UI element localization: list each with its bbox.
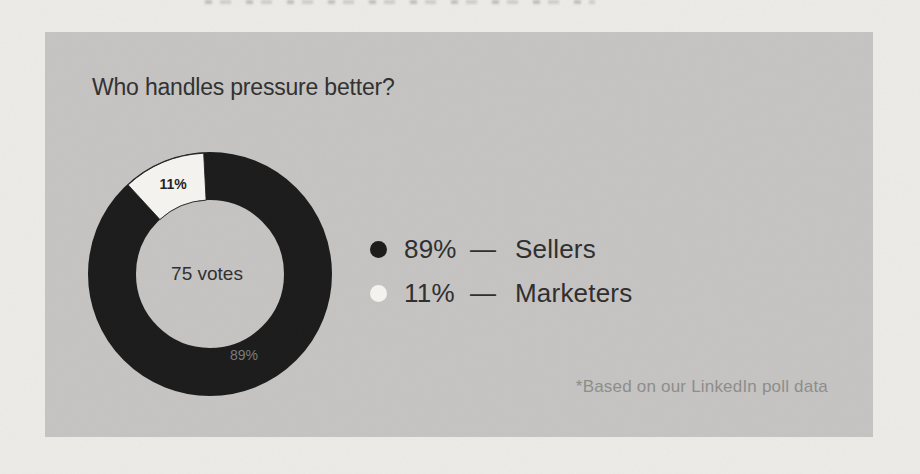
legend-row-sellers: 89% — Sellers [370, 227, 632, 271]
chart-title: Who handles pressure better? [92, 74, 395, 101]
legend-pct-sellers: 89% [404, 234, 470, 265]
cropped-text-artifact [205, 0, 595, 4]
donut-center-label: 75 votes [171, 263, 243, 284]
chart-legend: 89% — Sellers 11% — Marketers [370, 227, 632, 315]
legend-pct-marketers: 11% [404, 278, 470, 309]
legend-row-marketers: 11% — Marketers [370, 271, 632, 315]
donut-chart: 11% 89% 75 votes [87, 151, 333, 397]
marketers-dot-icon [370, 285, 387, 302]
legend-dash: — [470, 278, 515, 309]
slice-label-marketers: 11% [159, 176, 187, 192]
legend-label-sellers: Sellers [515, 234, 596, 265]
legend-label-marketers: Marketers [515, 278, 632, 309]
page: Who handles pressure better? 11% 89% 75 … [0, 0, 920, 474]
donut-chart-svg: 11% 89% 75 votes [87, 151, 333, 397]
footnote: *Based on our LinkedIn poll data [576, 377, 828, 397]
legend-dash: — [470, 234, 515, 265]
sellers-dot-icon [370, 241, 387, 258]
poll-card: Who handles pressure better? 11% 89% 75 … [45, 32, 873, 437]
slice-label-sellers: 89% [230, 347, 258, 363]
